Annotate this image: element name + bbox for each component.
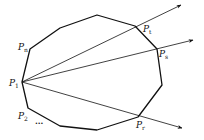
svg-text:r: r <box>142 124 145 131</box>
svg-text:1: 1 <box>15 82 19 89</box>
label-pn: P n <box>17 42 28 53</box>
svg-text:s: s <box>165 53 168 60</box>
label-ps: P s <box>158 49 168 60</box>
ray-to-ps <box>22 40 193 82</box>
svg-text:t: t <box>149 28 152 35</box>
svg-text:n: n <box>24 46 28 53</box>
label-p1: P 1 <box>8 78 19 89</box>
label-pt: P t <box>142 24 152 35</box>
convex-polygon <box>22 15 162 130</box>
diagram-canvas: P 1 P 2 P n P t P s P r ... <box>0 0 204 140</box>
svg-text:2: 2 <box>24 115 28 122</box>
ray-to-pr <box>22 82 182 128</box>
label-p2: P 2 <box>17 111 28 122</box>
ellipsis-label: ... <box>35 116 44 126</box>
label-pr: P r <box>135 120 145 131</box>
